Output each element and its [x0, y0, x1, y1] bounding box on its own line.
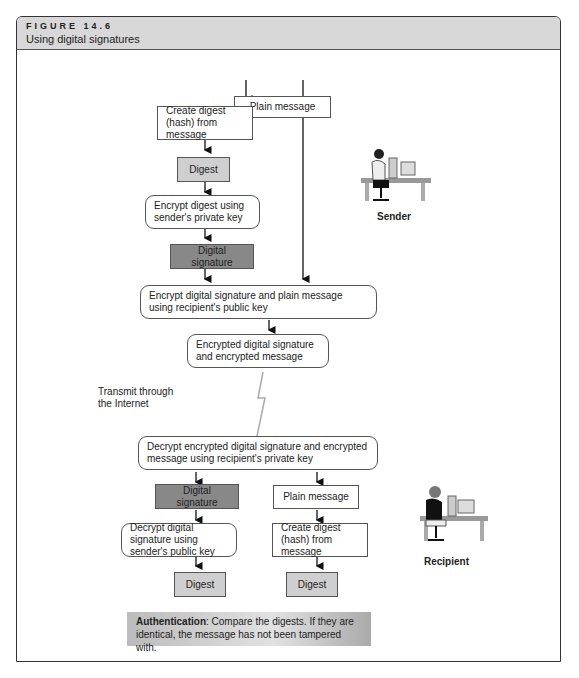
- sender-digital-signature-box: Digital signature: [170, 244, 254, 269]
- lightning-bolt-icon: [257, 372, 265, 436]
- recipient-create-digest-box: Create digest (hash) from message: [272, 523, 368, 557]
- sender-label: Sender: [377, 211, 411, 222]
- decrypt-signature-box: Decrypt digital signature using sender's…: [121, 523, 237, 557]
- transmit-label: Transmit through the Internet: [98, 386, 178, 410]
- authentication-note: Authentication: Compare the digests. If …: [127, 612, 371, 646]
- recipient-digital-signature-box: Digital signature: [155, 484, 239, 509]
- encrypted-result-box: Encrypted digital signature and encrypte…: [187, 334, 329, 368]
- recipient-digest-right-box: Digest: [286, 572, 338, 597]
- recipient-computer-user-icon: [410, 482, 490, 552]
- decrypt-signature-and-message-box: Decrypt encrypted digital signature and …: [138, 436, 378, 470]
- sender-digest-box: Digest: [177, 157, 230, 182]
- sender-encrypt-digest-box: Encrypt digest using sender's private ke…: [145, 195, 260, 229]
- encrypt-signature-and-message-box: Encrypt digital signature and plain mess…: [140, 285, 377, 319]
- authentication-title: Authentication: [136, 616, 206, 627]
- recipient-plain-message-box: Plain message: [273, 485, 359, 509]
- recipient-label: Recipient: [424, 556, 469, 567]
- recipient-digest-left-box: Digest: [174, 572, 226, 597]
- sender-computer-user-icon: [355, 140, 435, 210]
- sender-create-digest-box: Create digest (hash) from message: [157, 106, 253, 140]
